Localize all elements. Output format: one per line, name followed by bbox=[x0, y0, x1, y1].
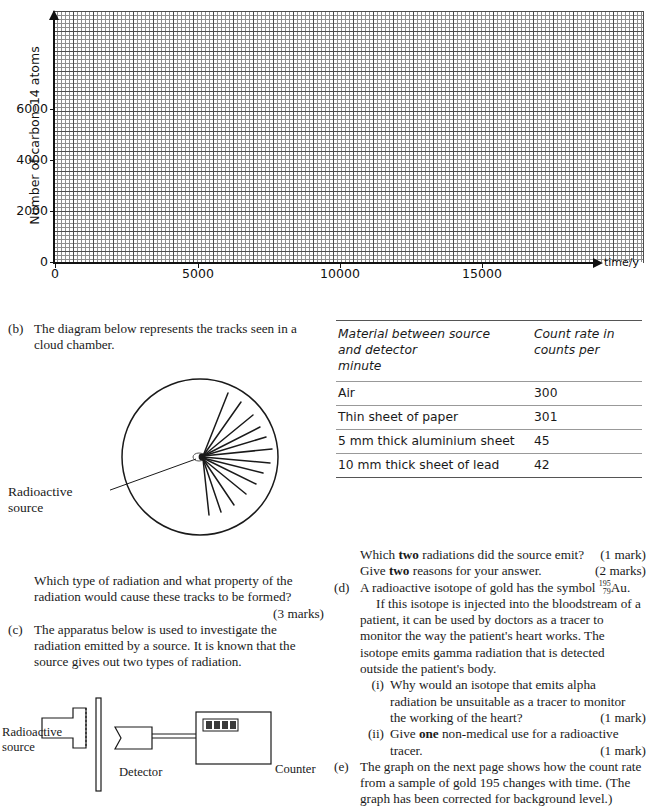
table-header-material-line1: Material between source bbox=[338, 326, 528, 342]
question-d-label: (d) bbox=[334, 580, 360, 678]
table-header-count-rate-line1: Count rate in bbox=[534, 326, 642, 342]
question-d-sub-i-marks: (1 mark) bbox=[600, 710, 646, 726]
table-cell-count-rate: 300 bbox=[528, 382, 642, 406]
sub-ii-pre: Give bbox=[390, 726, 419, 741]
q2-bold: two bbox=[389, 563, 410, 578]
carbon-14-graph-figure: time/y Number of carbon–14 atoms 0 2000 … bbox=[0, 0, 650, 300]
question-c-q2-sentence: Give two reasons for your answer. bbox=[360, 563, 595, 579]
sub-ii-post: non-medical use for a radioactive bbox=[439, 726, 619, 741]
question-b-text: The diagram below represents the tracks … bbox=[34, 321, 324, 354]
x-tick-label-0: 0 bbox=[25, 266, 85, 281]
question-c-text: The apparatus below is used to investiga… bbox=[34, 622, 324, 671]
table-header-material: Material between source and detector min… bbox=[336, 321, 528, 382]
question-b-label: (b) bbox=[8, 321, 34, 354]
question-d-sub-ii-row: (ii) Give one non-medical use for a radi… bbox=[334, 726, 646, 759]
isotope-atomic-number: 79 bbox=[599, 588, 611, 596]
question-c-line3: source gives out two types of radiation. bbox=[34, 654, 324, 670]
q1-bold: two bbox=[398, 547, 419, 562]
counter-box bbox=[196, 712, 271, 764]
q2-post: reasons for your answer. bbox=[409, 563, 541, 578]
question-b-prompt-text: Which type of radiation and what propert… bbox=[34, 573, 324, 622]
question-d-sub-ii-label: (ii) bbox=[360, 726, 390, 759]
cloud-chamber-diagram bbox=[110, 375, 300, 545]
counter-display-digits bbox=[206, 721, 236, 729]
question-b-prompt-line1: Which type of radiation and what propert… bbox=[34, 573, 324, 589]
count-rate-table-body: Air 300 Thin sheet of paper 301 5 mm thi… bbox=[336, 382, 642, 478]
isotope-symbol: Au. bbox=[611, 580, 630, 595]
question-c-q1-spacer bbox=[334, 547, 360, 580]
question-b-row: (b) The diagram below represents the tra… bbox=[8, 321, 324, 354]
question-c-q1-text: Which two radiations did the source emit… bbox=[360, 547, 646, 580]
table-header-material-line3: minute bbox=[338, 358, 528, 374]
question-d-sub-i-line3: the working of the heart? bbox=[390, 710, 600, 726]
table-cell-material: 5 mm thick aluminium sheet bbox=[336, 430, 528, 454]
table-header-count-rate: Count rate in counts per bbox=[528, 321, 642, 382]
table-cell-material: 10 mm thick sheet of lead bbox=[336, 454, 528, 478]
question-d-row: (d) A radioactive isotope of gold has th… bbox=[334, 580, 646, 678]
question-e-row: (e) The graph on the next page shows how… bbox=[334, 759, 646, 808]
question-d-para-line4: isotope emits gamma radiation that is de… bbox=[360, 645, 646, 661]
question-d-sub-ii-text: Give one non-medical use for a radioacti… bbox=[390, 726, 646, 759]
question-d-line1: A radioactive isotope of gold has the sy… bbox=[360, 580, 646, 596]
question-e-line3: graph has been corrected for background … bbox=[360, 791, 646, 807]
question-c-q2-line: Give two reasons for your answer. (2 mar… bbox=[360, 563, 646, 579]
table-row: Thin sheet of paper 301 bbox=[336, 406, 642, 430]
isotope-notation: 19579 bbox=[599, 580, 611, 596]
question-c-q1-marks: (1 mark) bbox=[600, 547, 646, 563]
table-header-material-line2: and detector bbox=[338, 342, 528, 358]
apparatus-detector-label: Detector bbox=[119, 765, 162, 780]
question-b-marks: (3 marks) bbox=[34, 606, 324, 622]
question-d-line1-pre: A radioactive isotope of gold has the sy… bbox=[360, 580, 599, 595]
apparatus-source-label: Radioactive source bbox=[2, 725, 62, 755]
table-cell-count-rate: 42 bbox=[528, 454, 642, 478]
question-d-sub-ii-marks: (1 mark) bbox=[600, 743, 646, 759]
y-tick-mark-4000 bbox=[50, 160, 55, 161]
x-tick-label-10000: 10000 bbox=[310, 266, 370, 281]
table-cell-material: Air bbox=[336, 382, 528, 406]
x-tick-label-15000: 15000 bbox=[452, 266, 512, 281]
table-cell-material: Thin sheet of paper bbox=[336, 406, 528, 430]
apparatus-source-label-line1: Radioactive bbox=[2, 725, 62, 740]
x-axis-arrowhead bbox=[593, 258, 603, 268]
question-d-para-line1: If this isotope is injected into the blo… bbox=[360, 596, 646, 612]
table-header-count-rate-line2: counts per bbox=[534, 342, 642, 358]
y-tick-mark-2000 bbox=[50, 211, 55, 212]
question-d-para-line2: patient, it can be used by doctors as a … bbox=[360, 612, 646, 628]
question-c-line1: The apparatus below is used to investiga… bbox=[34, 622, 324, 638]
x-tick-label-5000: 5000 bbox=[168, 266, 228, 281]
y-tick-label-2000: 2000 bbox=[0, 203, 48, 218]
question-d-sub-i-line2: radiation be unsuitable as a tracer to m… bbox=[390, 694, 646, 710]
table-row: 10 mm thick sheet of lead 42 bbox=[336, 454, 642, 478]
question-b-prompt-block: Which type of radiation and what propert… bbox=[8, 573, 324, 671]
question-c-label: (c) bbox=[8, 622, 34, 671]
sub-ii-bold: one bbox=[419, 726, 439, 741]
question-d-sub-i-line3-row: the working of the heart? (1 mark) bbox=[390, 710, 646, 726]
graph-grid-area bbox=[53, 11, 643, 262]
question-c-q2-marks: (2 marks) bbox=[595, 563, 646, 579]
cloud-chamber-source-label-line2: source bbox=[8, 500, 72, 516]
right-column-block: Which two radiations did the source emit… bbox=[334, 547, 646, 808]
question-c-row: (c) The apparatus below is used to inves… bbox=[8, 622, 324, 671]
question-c-line2: radiation emitted by a source. It is kno… bbox=[34, 638, 324, 654]
cloud-chamber-source-label-line1: Radioactive bbox=[8, 484, 72, 500]
question-d-sub-i-line1: Why would an isotope that emits alpha bbox=[390, 677, 646, 693]
question-d-para-line3: monitor the way the patient's heart work… bbox=[360, 628, 646, 644]
question-d-sub-ii-line2: tracer. bbox=[390, 743, 600, 759]
counter-digit bbox=[214, 721, 220, 729]
y-tick-label-4000: 4000 bbox=[0, 152, 48, 167]
question-e-label: (e) bbox=[334, 759, 360, 808]
counter-digit bbox=[206, 721, 212, 729]
q2-pre: Give bbox=[360, 563, 389, 578]
question-d-sub-ii-line2-row: tracer. (1 mark) bbox=[390, 743, 646, 759]
question-b-block: (b) The diagram below represents the tra… bbox=[8, 321, 324, 354]
question-b-prompt-spacer bbox=[8, 573, 34, 622]
apparatus-counter-label: Counter bbox=[275, 762, 316, 777]
question-b-prompt-row: Which type of radiation and what propert… bbox=[8, 573, 324, 622]
count-rate-table-head: Material between source and detector min… bbox=[336, 321, 642, 382]
question-c-q1-sentence: Which two radiations did the source emit… bbox=[360, 547, 600, 563]
apparatus-source-label-line2: source bbox=[2, 740, 62, 755]
x-axis-title: time/y bbox=[604, 256, 639, 269]
y-tick-label-6000: 6000 bbox=[0, 101, 48, 116]
detector-tube bbox=[115, 727, 152, 749]
question-d-sub-i-label: (i) bbox=[360, 677, 390, 726]
